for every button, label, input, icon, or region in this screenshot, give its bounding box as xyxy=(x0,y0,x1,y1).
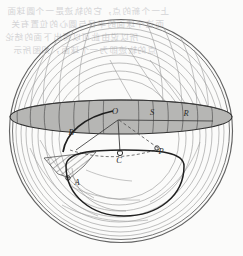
label-P: P xyxy=(157,146,163,156)
label-C: C xyxy=(116,155,122,165)
hatched-wedge xyxy=(44,152,96,178)
label-O: O xyxy=(112,106,118,116)
label-R: R xyxy=(182,108,189,118)
hatched-region-group xyxy=(44,152,96,178)
label-A: A xyxy=(73,177,80,187)
lower-arc-4 xyxy=(86,170,132,181)
label-B: B xyxy=(68,127,73,137)
geometry-diagram: O S R B C P A xyxy=(0,0,243,256)
equatorial-band xyxy=(10,100,232,134)
inner-oval-highlight xyxy=(72,168,126,211)
lower-arcs-group xyxy=(30,140,200,221)
meridian-arc-11 xyxy=(150,60,184,106)
figure-canvas: 上一个新的点，它的轨迹是一个圆球面 而这个球面的半径与圆心的位置有关 所以说由此… xyxy=(0,0,243,256)
